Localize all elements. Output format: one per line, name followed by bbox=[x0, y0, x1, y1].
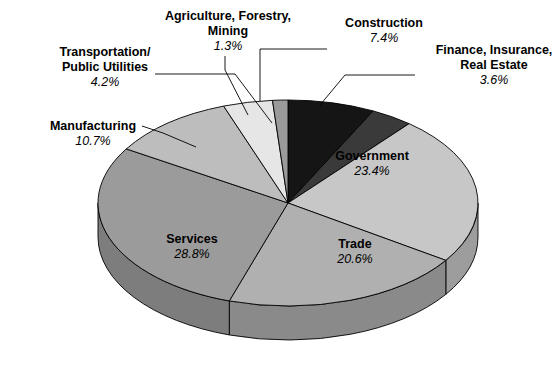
slice-label-pct-transportation-public-utilities: 4.2% bbox=[91, 75, 120, 89]
pie-chart-canvas: Construction7.4%Finance, Insurance,Real … bbox=[0, 0, 558, 366]
pie-top-slices bbox=[98, 100, 478, 306]
slice-label-pct-government: 23.4% bbox=[353, 164, 389, 178]
slice-label-name2-finance-insurance-real-estate: Real Estate bbox=[460, 58, 527, 72]
leader-line-finance-insurance-real-estate bbox=[320, 75, 415, 105]
slice-label-name-finance-insurance-real-estate: Finance, Insurance, bbox=[436, 43, 553, 57]
slice-label-pct-construction: 7.4% bbox=[370, 31, 399, 45]
slice-label-pct-trade: 20.6% bbox=[336, 252, 372, 266]
slice-label-pct-services: 28.8% bbox=[173, 247, 209, 261]
slice-label-name-trade: Trade bbox=[338, 237, 371, 251]
leader-line-construction bbox=[260, 49, 327, 101]
slice-label-name-transportation-public-utilities: Transportation/ bbox=[60, 45, 152, 59]
slice-label-pct-manufacturing: 10.7% bbox=[75, 134, 110, 148]
slice-label-name-agriculture-forestry-mining: Agriculture, Forestry, bbox=[165, 9, 291, 23]
slice-label-name2-transportation-public-utilities: Public Utilities bbox=[62, 60, 148, 74]
slice-label-name-government: Government bbox=[335, 149, 409, 163]
slice-label-name-manufacturing: Manufacturing bbox=[50, 119, 136, 133]
slice-label-name-construction: Construction bbox=[345, 16, 423, 30]
slice-label-name2-agriculture-forestry-mining: Mining bbox=[208, 24, 248, 38]
pie-chart-figure: Construction7.4%Finance, Insurance,Real … bbox=[0, 0, 558, 366]
slice-label-pct-finance-insurance-real-estate: 3.6% bbox=[480, 73, 509, 87]
slice-label-pct-agriculture-forestry-mining: 1.3% bbox=[214, 39, 243, 53]
slice-label-name-services: Services bbox=[166, 232, 217, 246]
